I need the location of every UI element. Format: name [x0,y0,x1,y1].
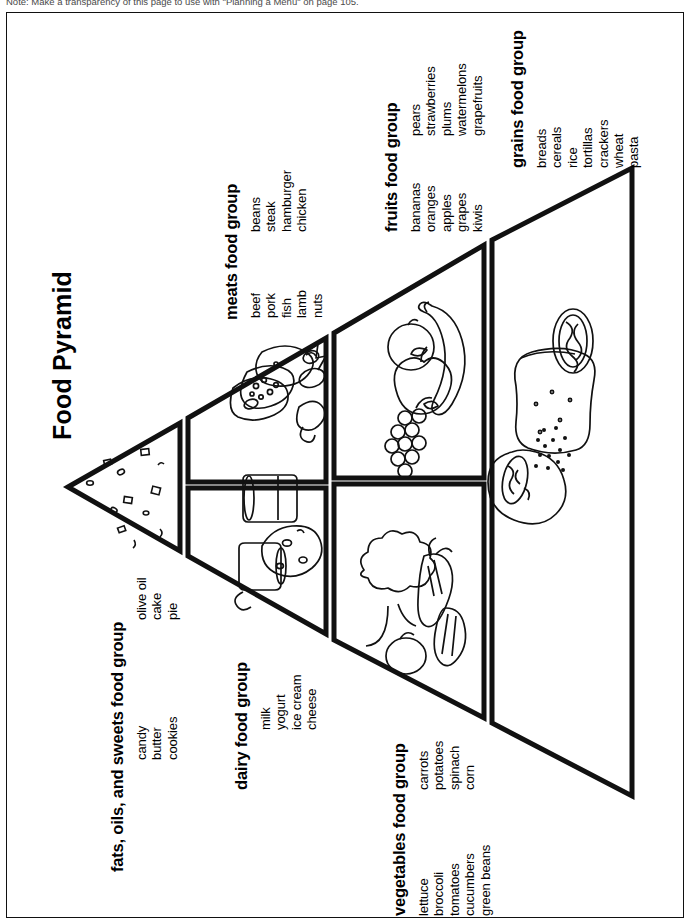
group-items-fruits-col1: bananas oranges apples grapes kiwis [408,183,485,232]
group-title-dairy: dairy food group [232,662,251,790]
group-title-meats: meats food group [222,184,241,320]
food-pyramid-diagram: Food Pyramid fats, oils, and sweets food… [0,0,693,922]
group-title-vegetables: vegetables food group [390,743,409,916]
group-title-fats: fats, oils, and sweets food group [108,622,127,872]
group-items-fruits-col2: pears strawberries plums watermelons gra… [408,63,485,136]
group-items-vegetables-col1: lettuce broccoli tomatoes cucumbers gree… [416,845,493,916]
group-title-grains: grains food group [508,30,527,168]
group-items-fats-col1: candy butter cookies [134,717,180,760]
group-items-grains-col1: breads cereals rice tortillas crackers w… [534,120,642,168]
group-items-meats-col2: beans steak hamburger chicken [248,170,310,232]
group-items-meats-col1: beef pork fish lamb nuts [248,290,325,318]
group-items-vegetables-col2: carrots potatoes spinach corn [416,741,478,790]
group-title-fruits: fruits food group [382,103,401,233]
group-items-fats-col2: olive oil cake pie [134,578,180,620]
group-items-dairy-col1: milk yogurt ice cream cheese [258,675,320,730]
page-title: Food Pyramid [48,271,77,440]
